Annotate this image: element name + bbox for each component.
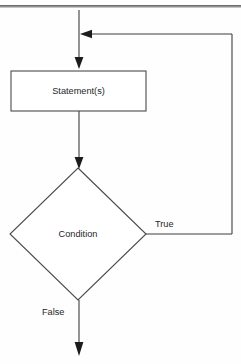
loopback-arrow-head-icon: [80, 30, 92, 38]
statement-box-label: Statement(s): [52, 86, 105, 96]
page-top-rule: [0, 5, 241, 7]
false-branch-arrow-head-icon: [75, 342, 84, 356]
entry-arrow-head-icon: [75, 57, 84, 69]
flowchart-canvas: Statement(s) Condition True False: [0, 0, 241, 364]
false-branch-label: False: [42, 307, 64, 317]
statement-to-condition-arrow-head-icon: [75, 157, 84, 169]
condition-diamond-label: Condition: [59, 229, 98, 239]
true-branch-label: True: [155, 219, 174, 229]
page-top-rule-shadow: [0, 7, 241, 8]
flowchart-diagram: Statement(s) Condition True False: [0, 0, 241, 364]
